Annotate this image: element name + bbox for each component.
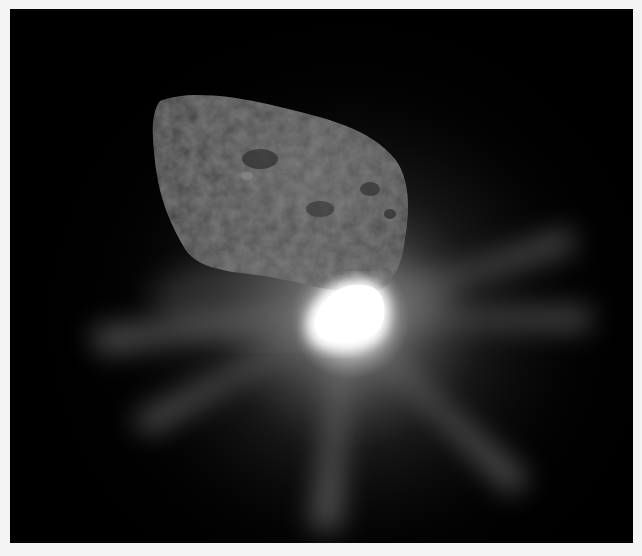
comet-impact-image xyxy=(10,9,633,543)
photo-frame xyxy=(10,9,633,543)
